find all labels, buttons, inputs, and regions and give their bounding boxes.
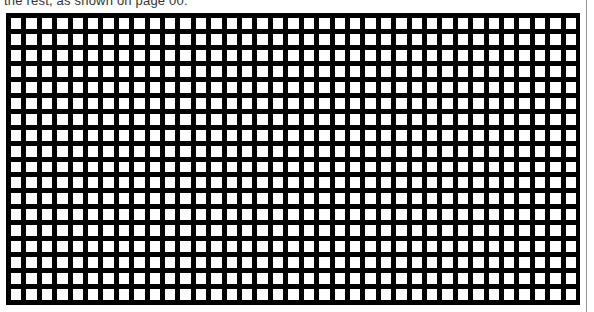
grid-cell: [550, 34, 560, 45]
grid-cell: [88, 225, 98, 236]
grid-cell: [150, 241, 160, 252]
grid-cell: [381, 257, 391, 268]
grid-cell: [458, 177, 468, 188]
grid-cell: [257, 225, 267, 236]
grid-cell: [257, 177, 267, 188]
grid-cell: [396, 130, 406, 141]
grid-cell: [566, 98, 576, 109]
grid-cell: [473, 289, 483, 300]
grid-cell: [11, 162, 21, 173]
grid-cell: [242, 241, 252, 252]
grid-cell: [489, 209, 499, 220]
grid-cell: [11, 177, 21, 188]
grid-cell: [566, 146, 576, 157]
grid-cell: [381, 130, 391, 141]
grid-cell: [504, 82, 514, 93]
grid-cell: [42, 241, 52, 252]
grid-cell: [103, 18, 113, 29]
grid-cell: [304, 289, 314, 300]
grid-cell: [11, 130, 21, 141]
grid-cell: [119, 18, 129, 29]
grid-cell: [412, 162, 422, 173]
grid-cell: [304, 130, 314, 141]
grid-cell: [180, 225, 190, 236]
grid-cell: [165, 18, 175, 29]
grid-cell: [427, 193, 437, 204]
grid-cell: [196, 225, 206, 236]
grid-cell: [57, 193, 67, 204]
grid-cell: [442, 193, 452, 204]
grid-cell: [242, 34, 252, 45]
grid-cell: [535, 273, 545, 284]
grid-cell: [257, 193, 267, 204]
grid-cell: [257, 82, 267, 93]
grid-cell: [365, 114, 375, 125]
grid-cell: [319, 289, 329, 300]
grid-cell: [319, 241, 329, 252]
grid-cell: [180, 130, 190, 141]
grid-cell: [504, 98, 514, 109]
grid-cell: [365, 273, 375, 284]
grid-cell: [57, 18, 67, 29]
grid-cell: [180, 18, 190, 29]
grid-cell: [396, 162, 406, 173]
grid-cell: [42, 130, 52, 141]
grid-cell: [150, 66, 160, 77]
grid-cell: [535, 98, 545, 109]
grid-cell: [350, 209, 360, 220]
grid-cell: [257, 66, 267, 77]
grid-cell: [227, 209, 237, 220]
grid-cell: [350, 241, 360, 252]
grid-cell: [165, 225, 175, 236]
grid-cell: [26, 18, 36, 29]
grid-cell: [242, 273, 252, 284]
grid-cell: [273, 98, 283, 109]
grid-cell: [11, 289, 21, 300]
grid-cell: [427, 289, 437, 300]
grid-cell: [273, 18, 283, 29]
grid-cell: [489, 162, 499, 173]
grid-cell: [42, 162, 52, 173]
grid-cell: [103, 177, 113, 188]
grid-cell: [566, 162, 576, 173]
grid-cell: [427, 273, 437, 284]
grid-cell: [103, 193, 113, 204]
grid-cell: [504, 130, 514, 141]
grid-cell: [458, 289, 468, 300]
grid-cell: [11, 82, 21, 93]
grid-cell: [504, 177, 514, 188]
grid-cell: [211, 225, 221, 236]
grid-cell: [442, 289, 452, 300]
grid-cell: [427, 34, 437, 45]
grid-cell: [396, 257, 406, 268]
grid-cell: [227, 257, 237, 268]
grid-cell: [566, 82, 576, 93]
grid-cell: [42, 209, 52, 220]
grid-cell: [273, 209, 283, 220]
grid-cell: [489, 98, 499, 109]
grid-cell: [519, 257, 529, 268]
grid-cell: [412, 98, 422, 109]
grid-cell: [381, 289, 391, 300]
grid-cell: [180, 34, 190, 45]
grid-cell: [535, 34, 545, 45]
grid-cell: [165, 257, 175, 268]
grid-cell: [319, 82, 329, 93]
grid-cell: [165, 241, 175, 252]
grid-cell: [42, 257, 52, 268]
grid-cell: [119, 209, 129, 220]
grid-cell: [304, 82, 314, 93]
grid-cell: [211, 193, 221, 204]
grid-cell: [180, 114, 190, 125]
grid-cell: [304, 177, 314, 188]
grid-cell: [88, 50, 98, 61]
grid-cell: [304, 18, 314, 29]
grid-cell: [257, 98, 267, 109]
grid-cell: [227, 98, 237, 109]
grid-cell: [504, 162, 514, 173]
grid-cell: [134, 225, 144, 236]
grid-cell: [257, 257, 267, 268]
grid-cell: [473, 209, 483, 220]
grid-cell: [442, 257, 452, 268]
grid-cell: [26, 257, 36, 268]
